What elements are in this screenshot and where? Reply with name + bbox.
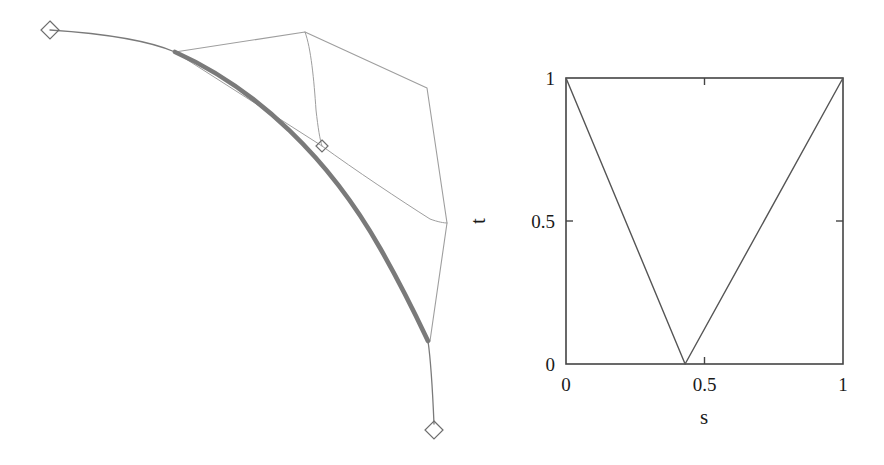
- curve-segment-thin-tail: [428, 341, 434, 424]
- endpoint-marker-group: [41, 21, 443, 439]
- parameter-domain-panel: 00.5100.51 s t: [460, 0, 884, 465]
- y-axis-label: t: [466, 218, 490, 224]
- tick-label-group: 00.5100.51: [531, 68, 848, 395]
- curve-segment-highlighted: [175, 52, 428, 341]
- figure-root: 00.5100.51 s t: [0, 0, 884, 465]
- curve-segment-thin-head: [50, 30, 175, 52]
- y-tick-label: 0: [546, 354, 556, 375]
- curve-group: [50, 30, 434, 424]
- plot-frame: [566, 78, 843, 364]
- y-tick-label: 0.5: [531, 211, 555, 232]
- x-tick-label: 0: [561, 374, 571, 395]
- parameter-correspondence-line: [566, 78, 843, 364]
- inner-boundary-upper: [305, 32, 322, 146]
- x-tick-label: 0.5: [693, 374, 717, 395]
- tick-mark-group: [566, 78, 843, 364]
- bezier-curve-panel: [0, 0, 470, 465]
- polygon-spur-to-knot: [175, 52, 322, 146]
- x-axis-label: s: [700, 405, 708, 429]
- x-tick-label: 1: [838, 374, 848, 395]
- y-tick-label: 1: [546, 68, 556, 89]
